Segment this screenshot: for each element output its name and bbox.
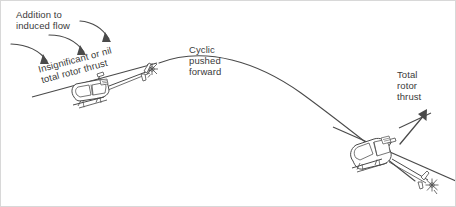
label-cyclic-pushed-forward: Cyclic pushed forward <box>189 44 221 78</box>
helicopter-nose-down-icon <box>333 113 456 194</box>
straight-arrow-up-right-icon <box>400 109 427 144</box>
curved-arrow-down-right-icon <box>11 44 49 64</box>
helicopter-cyclic-diagram: Addition to induced flow Insignificant o… <box>0 0 456 207</box>
label-addition-to-induced-flow: Addition to induced flow <box>16 9 70 31</box>
curved-arrow-down-right-icon <box>80 21 111 42</box>
diagram-canvas <box>1 1 456 207</box>
label-total-rotor-thrust: Total rotor thrust <box>397 69 421 103</box>
